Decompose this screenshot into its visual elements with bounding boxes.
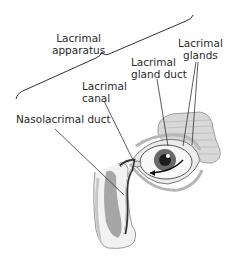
label-line: canal — [82, 92, 127, 104]
label-line: Lacrimal — [82, 80, 127, 92]
label-lacrimal-gland-duct: Lacrimal gland duct — [131, 56, 187, 80]
lacrimal-apparatus-diagram: Lacrimal apparatus Lacrimal glands Lacri… — [0, 0, 235, 261]
label-line: apparatus — [52, 44, 105, 56]
label-lacrimal-canal: Lacrimal canal — [82, 80, 127, 104]
label-line: Lacrimal — [52, 32, 105, 44]
label-line: Lacrimal — [178, 37, 223, 49]
label-line: gland duct — [131, 68, 187, 80]
leader-nasolacrimal-duct — [55, 129, 124, 195]
leader-lacrimal-canal — [104, 101, 133, 160]
label-line: Lacrimal — [131, 56, 187, 68]
label-lacrimal-apparatus: Lacrimal apparatus — [52, 32, 105, 56]
label-nasolacrimal-duct: Nasolacrimal duct — [16, 113, 111, 125]
